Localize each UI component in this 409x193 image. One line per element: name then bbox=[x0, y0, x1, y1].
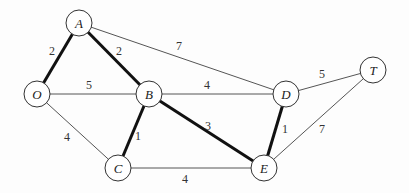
node-label: O bbox=[32, 87, 42, 102]
graph-diagram: 227545413174AOBDTCE bbox=[0, 0, 409, 193]
edge-weight-b-c: 1 bbox=[135, 129, 141, 143]
edge-a-d bbox=[79, 23, 286, 94]
node-label: C bbox=[114, 161, 123, 176]
node-c: C bbox=[105, 155, 131, 181]
edge-weight-d-e: 1 bbox=[282, 122, 288, 136]
node-t: T bbox=[360, 57, 386, 83]
node-d: D bbox=[273, 81, 299, 107]
edge-weight-b-e: 3 bbox=[205, 119, 211, 133]
node-label: T bbox=[369, 63, 377, 78]
edge-weight-o-a: 2 bbox=[49, 44, 55, 58]
edge-weight-c-e: 4 bbox=[182, 172, 188, 186]
edge-o-c bbox=[37, 94, 118, 168]
node-b: B bbox=[136, 81, 162, 107]
node-label: E bbox=[259, 161, 268, 176]
edge-weight-a-d: 7 bbox=[176, 39, 182, 53]
edge-weight-a-b: 2 bbox=[116, 44, 122, 58]
edge-weight-d-t: 5 bbox=[319, 67, 325, 81]
edge-weight-o-c: 4 bbox=[64, 130, 70, 144]
node-label: A bbox=[74, 16, 83, 31]
edge-weight-o-b: 5 bbox=[86, 78, 92, 92]
node-o: O bbox=[24, 81, 50, 107]
node-label: D bbox=[280, 87, 291, 102]
node-label: B bbox=[145, 87, 153, 102]
graph-svg: 227545413174AOBDTCE bbox=[0, 0, 409, 193]
node-a: A bbox=[66, 10, 92, 36]
edge-weight-t-e: 7 bbox=[319, 122, 325, 136]
node-e: E bbox=[251, 155, 277, 181]
edge-weight-b-d: 4 bbox=[204, 78, 210, 92]
